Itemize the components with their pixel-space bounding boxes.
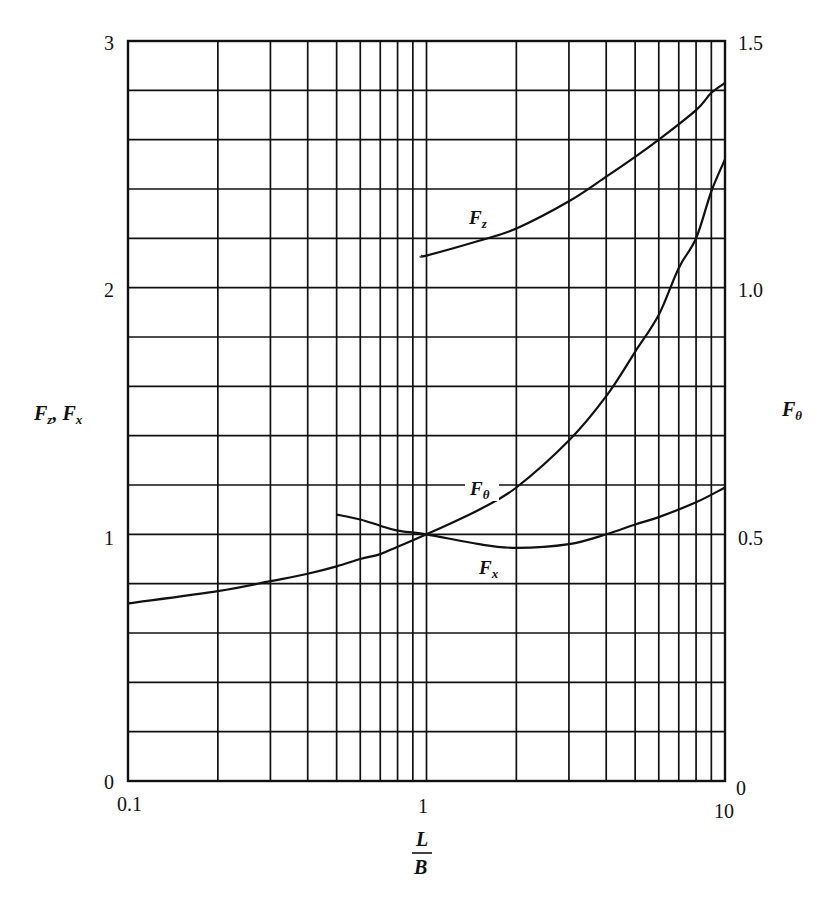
y-right-tick-1.0: 1.0 [738,279,763,301]
y-right-tick-0: 0 [736,777,746,799]
chart: 3 2 1 0 1.5 1.0 0.5 0 0.1 1 10 L B Fz, F… [0,0,839,899]
grid [128,41,725,781]
curve-label-ftheta: Fθ [465,475,499,502]
y-left-tick-0: 0 [104,771,114,793]
x-label-numerator: L [415,828,428,850]
y-right-label: Fθ [781,398,802,423]
y-right-tick-1.5: 1.5 [738,32,763,54]
x-label-denominator: B [413,856,427,878]
x-tick-10: 10 [714,800,734,822]
y-left-tick-2: 2 [104,279,114,301]
y-left-tick-1: 1 [104,527,114,549]
curve-Fx [337,488,725,548]
x-tick-0.1: 0.1 [117,793,142,815]
y-left-label: Fz, Fx [33,402,83,427]
x-tick-1: 1 [418,795,428,817]
x-axis-label: L B [412,828,432,878]
curve-label-fz: Fz [467,205,497,231]
y-right-tick-0.5: 0.5 [738,527,763,549]
y-left-tick-3: 3 [104,32,114,54]
curve-label-fx: Fx [476,554,506,581]
